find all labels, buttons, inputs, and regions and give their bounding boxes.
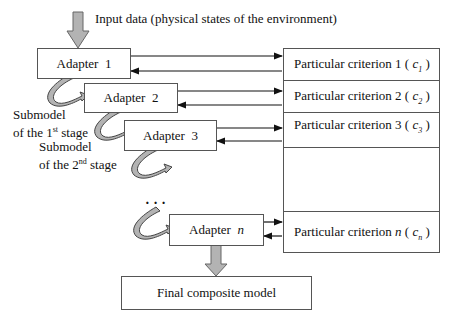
adapter-label: Adapter (189, 222, 231, 238)
adapter-3: Adapter 3 (124, 120, 217, 151)
submodel-2-label: Submodel of the 2nd stage (39, 139, 117, 172)
adapter-label: Adapter (57, 56, 99, 72)
adapter-label: Adapter (143, 128, 185, 144)
final-composite-model: Final composite model (121, 276, 312, 310)
criterion-3: Particular criterion 3 ( c3 ) (284, 113, 439, 148)
criterion-n: Particular criterion n ( cn ) (284, 212, 439, 253)
adapter-number: n (237, 222, 244, 238)
adapter-n: Adapter n (169, 214, 264, 246)
adapter-1: Adapter 1 (37, 48, 131, 79)
criterion-1: Particular criterion 1 ( c1 ) (284, 49, 439, 81)
adapter-number: 2 (152, 90, 159, 106)
adapter-2: Adapter 2 (84, 83, 178, 113)
criterion-placeholder (284, 148, 439, 212)
submodel-line2: of the 2nd stage (39, 154, 117, 172)
adapter-number: 1 (105, 56, 112, 72)
submodel-line2: of the 1st stage (13, 122, 88, 140)
submodel-1-label: Submodel of the 1st stage (13, 107, 88, 140)
adapter-number: 3 (191, 128, 198, 144)
submodel-line1: Submodel (13, 107, 88, 122)
criteria-column: Particular criterion 1 ( c1 ) Particular… (283, 48, 440, 253)
input-label: Input data (physical states of the envir… (95, 11, 337, 26)
output-arrow-icon (205, 245, 227, 276)
input-arrow-icon (67, 12, 89, 48)
submodel-line1: Submodel (39, 139, 117, 154)
ellipsis: · · · (145, 196, 166, 211)
adapter-label: Adapter (104, 90, 146, 106)
criterion-2: Particular criterion 2 ( c2 ) (284, 81, 439, 113)
